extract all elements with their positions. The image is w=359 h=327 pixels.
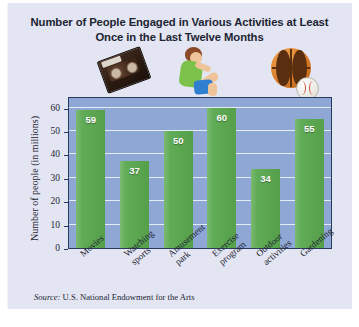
chart-title: Number of People Engaged in Various Acti… [23,15,336,44]
y-tick-label: 50 [38,126,60,136]
x-axis-ticks: MoviesWatching sportsAmusement parkExerc… [68,251,332,297]
basketball-and-baseball-clipart [269,48,323,98]
bar-value-label: 55 [295,123,324,134]
bar[interactable]: 59 [76,110,105,248]
bar-value-label: 60 [207,112,236,123]
person-doing-situps-clipart [167,47,225,97]
y-tick-mark [64,249,68,250]
source-text: U.S. National Endowment for the Arts [63,292,195,302]
y-tick-label: 20 [38,196,60,206]
y-tick-label: 10 [38,220,60,230]
y-tick-label: 30 [38,173,60,183]
person-shin [208,83,217,96]
y-tick-label: 40 [38,149,60,159]
bar-slot: 59 [69,98,113,248]
basketball-seam-curve-left [276,50,291,86]
source-note: Source: U.S. National Endowment for the … [34,292,195,302]
vhs-cassette-clipart [97,46,152,94]
y-tick-label: 0 [38,243,60,253]
y-tick-label: 60 [38,103,60,113]
bar-value-label: 37 [120,165,149,176]
bar-value-label: 59 [76,114,105,125]
source-prefix: Source: [34,292,60,302]
bar-value-label: 34 [251,173,280,184]
bar-value-label: 50 [164,135,193,146]
figure-card: Number of People Engaged in Various Acti… [7,3,352,309]
